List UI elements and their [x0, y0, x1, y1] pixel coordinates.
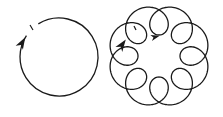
start-tick-mark: [30, 25, 33, 30]
circle-path: [5, 3, 112, 110]
looped-orbit-figure: [92, 0, 223, 117]
diagram-canvas: [0, 0, 223, 117]
start-tick-mark: [134, 26, 136, 30]
diagram-svg: [0, 0, 223, 117]
looped-orbit-path: [92, 0, 223, 117]
arrowhead-icon: [150, 35, 159, 41]
simple-circle-figure: [5, 3, 112, 110]
